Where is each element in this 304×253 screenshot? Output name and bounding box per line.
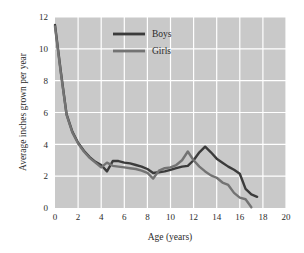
chart-canvas: 02468101214161820 024681012 Age (years) … [0, 0, 304, 253]
legend-label-boys: Boys [152, 29, 172, 39]
x-tick-label-10: 10 [166, 212, 176, 222]
x-tick-label-12: 12 [189, 212, 198, 222]
x-axis-title: Age (years) [148, 232, 193, 243]
x-tick-label-4: 4 [99, 212, 104, 222]
legend-label-girls: Girls [152, 46, 171, 56]
y-tick-label-2: 2 [44, 171, 49, 181]
y-axis-title: Average inches grown per year [18, 52, 28, 171]
x-tick-label-0: 0 [53, 212, 58, 222]
x-tick-label-18: 18 [258, 212, 268, 222]
y-tick-label-0: 0 [44, 203, 49, 213]
y-tick-label-6: 6 [44, 108, 49, 118]
growth-chart-figure: 02468101214161820 024681012 Age (years) … [0, 0, 304, 253]
x-tick-label-16: 16 [235, 212, 245, 222]
y-tick-label-10: 10 [39, 44, 49, 54]
x-tick-label-14: 14 [212, 212, 222, 222]
y-tick-label-8: 8 [44, 76, 49, 86]
x-tick-label-20: 20 [282, 212, 292, 222]
x-tick-label-2: 2 [76, 212, 81, 222]
y-tick-label-4: 4 [44, 140, 49, 150]
x-tick-label-6: 6 [122, 212, 127, 222]
x-tick-label-8: 8 [145, 212, 150, 222]
y-tick-label-12: 12 [39, 12, 48, 22]
